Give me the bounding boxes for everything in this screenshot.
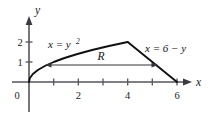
y-axis-label: y xyxy=(34,4,41,17)
y-tick-label-2: 2 xyxy=(17,37,22,48)
graph-plot: y x 0 2 4 6 1 2 x = y 2 x = 6 − y R xyxy=(0,0,215,114)
y-axis-arrowhead xyxy=(26,16,33,25)
left-curve-equation-label: x = y 2 xyxy=(47,37,80,51)
left-curve-equation-text: x = y xyxy=(47,38,71,50)
region-width-arrow-head-left xyxy=(45,63,52,68)
x-tick-label-2: 2 xyxy=(76,90,81,101)
figure-container: y x 0 2 4 6 1 2 x = y 2 x = 6 − y R xyxy=(0,0,215,114)
left-curve-equation-exponent: 2 xyxy=(76,37,80,46)
region-label-R: R xyxy=(96,50,104,62)
origin-label: 0 xyxy=(14,90,19,101)
x-axis-arrowhead xyxy=(183,79,192,86)
x-tick-label-4: 4 xyxy=(125,90,131,101)
y-tick-label-1: 1 xyxy=(17,57,22,68)
parabola-curve-x-equals-y-squared xyxy=(29,42,128,82)
x-tick-label-6: 6 xyxy=(174,90,179,101)
x-axis-label: x xyxy=(195,76,202,88)
right-line-equation-label: x = 6 − y xyxy=(144,42,186,54)
